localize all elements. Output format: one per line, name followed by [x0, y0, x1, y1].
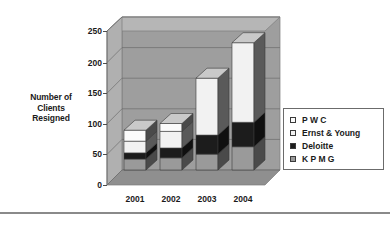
bar-group-2002: [160, 114, 193, 171]
y-tick-0: 0: [76, 180, 102, 190]
y-tick-250: 250: [76, 26, 102, 36]
y-tick-mark-0: [103, 185, 107, 186]
y-tick-mark-50: [103, 154, 107, 155]
bar-group-2001: [124, 120, 157, 170]
legend-swatch-pwc: [290, 117, 296, 123]
page-divider: [0, 212, 390, 214]
y-axis-title-line-3: Resigned: [14, 113, 88, 124]
plot-top-face: [107, 17, 280, 31]
x-tick-2003: 2003: [190, 194, 224, 204]
chart-legend: P W C Ernst & Young Deloitte K P M G: [283, 108, 384, 170]
plot-floor: [107, 170, 280, 185]
y-axis-title-line-1: Number of: [14, 92, 88, 103]
y-axis-title: Number of Clients Resigned: [14, 92, 88, 124]
y-tick-mark-150: [103, 93, 107, 94]
bar-group-2004: [232, 33, 265, 170]
chart-figure: 250 200 150 100 50 0 Number of Clients R…: [0, 0, 390, 225]
legend-item-ernst-young[interactable]: Ernst & Young: [284, 126, 383, 139]
legend-label-kpmg: K P M G: [302, 154, 334, 164]
legend-item-pwc[interactable]: P W C: [284, 113, 383, 126]
legend-label-deloitte: Deloitte: [302, 141, 333, 151]
legend-item-deloitte[interactable]: Deloitte: [284, 139, 383, 152]
legend-item-kpmg[interactable]: K P M G: [284, 152, 383, 165]
y-axis-title-line-2: Clients: [14, 103, 88, 114]
x-tick-2001: 2001: [118, 194, 152, 204]
legend-swatch-ernst-young: [290, 130, 296, 136]
bar-group-2003: [196, 68, 229, 170]
plot-side-wall: [107, 17, 122, 185]
y-tick-mark-200: [103, 63, 107, 64]
legend-swatch-kpmg: [290, 156, 296, 162]
y-tick-50: 50: [76, 149, 102, 159]
y-tick-200: 200: [76, 58, 102, 68]
legend-label-pwc: P W C: [302, 115, 326, 125]
y-tick-mark-250: [103, 31, 107, 32]
x-tick-2004: 2004: [226, 194, 260, 204]
x-tick-2002: 2002: [154, 194, 188, 204]
legend-swatch-deloitte: [290, 143, 296, 149]
legend-label-ernst-young: Ernst & Young: [302, 128, 360, 138]
y-tick-mark-100: [103, 124, 107, 125]
